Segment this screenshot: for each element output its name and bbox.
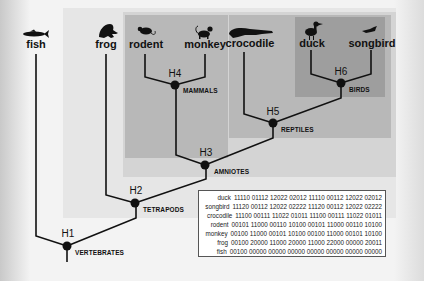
- matrix-row: frog 00100 20000 11000 20000 11000 22000…: [201, 238, 382, 247]
- matrix-row: songbird 11120 00112 12022 02222 11120 0…: [201, 202, 382, 211]
- matrix-codes: 11110 01112 12022 02012 11110 00112 1202…: [234, 193, 382, 202]
- taxon-label-frog: frog: [95, 38, 116, 50]
- matrix-taxon: songbird: [201, 202, 232, 211]
- clade-label-reptiles: REPTILES: [281, 126, 314, 133]
- matrix-taxon: rodent: [201, 220, 232, 229]
- node-label-h6: H6: [335, 66, 348, 77]
- taxon-label-duck: duck: [299, 37, 325, 49]
- matrix-row: fish 00100 00000 00000 00000 00000 00000…: [201, 247, 382, 256]
- matrix-codes: 00101 11000 00110 10100 00101 11000 0011…: [232, 220, 382, 229]
- taxon-label-rodent: rodent: [129, 38, 163, 50]
- node-label-h1: H1: [62, 228, 75, 239]
- frog-icon: [99, 24, 118, 38]
- taxon-label-crocodile: crocodile: [226, 37, 275, 49]
- matrix-taxon: frog: [201, 238, 231, 247]
- node-label-h2: H2: [130, 185, 143, 196]
- character-matrix: duck 11110 01112 12022 02012 11110 00112…: [198, 190, 386, 257]
- matrix-codes: 00100 20000 11000 20000 11000 22000 0000…: [231, 238, 382, 247]
- matrix-taxon: fish: [201, 247, 230, 256]
- node-h6: [337, 79, 346, 88]
- node-label-h4: H4: [169, 68, 182, 79]
- branch-h3-h5: [205, 123, 273, 165]
- clade-label-mammals: MAMMALS: [183, 87, 218, 94]
- clade-label-amniotes: AMNIOTES: [214, 168, 249, 175]
- node-h5: [269, 119, 278, 128]
- node-h4: [171, 81, 180, 90]
- node-h1: [63, 242, 72, 251]
- branch-h1-h2: [67, 203, 136, 246]
- node-h3: [201, 161, 210, 170]
- matrix-taxon: crocodile: [201, 211, 235, 220]
- matrix-codes: 11120 00112 12022 02222 11120 00112 1202…: [232, 202, 382, 211]
- matrix-codes: 11100 00111 11022 01011 11100 00111 1102…: [235, 211, 382, 220]
- branch-frog: [106, 54, 135, 203]
- clade-label-vertebrates: VERTEBRATES: [75, 249, 124, 256]
- matrix-row: rodent 00101 11000 00110 10100 00101 110…: [201, 220, 382, 229]
- taxon-label-fish: fish: [26, 38, 46, 50]
- matrix-row: monkey 00100 11000 00101 10100 00100 110…: [201, 229, 382, 238]
- node-label-h3: H3: [200, 147, 213, 158]
- node-h2: [131, 199, 140, 208]
- branch-h5-h6: [273, 83, 341, 123]
- taxon-label-monkey: monkey: [184, 38, 226, 50]
- rodent-icon: [138, 27, 156, 35]
- clade-label-birds: BIRDS: [349, 86, 370, 93]
- matrix-row: duck 11110 01112 12022 02012 11110 00112…: [201, 193, 382, 202]
- matrix-taxon: monkey: [201, 229, 231, 238]
- matrix-row: crocodile 11100 00111 11022 01011 11100 …: [201, 211, 382, 220]
- matrix-codes: 00100 00000 00000 00000 00000 00000 0000…: [230, 247, 382, 256]
- matrix-taxon: duck: [201, 193, 234, 202]
- node-label-h5: H5: [267, 106, 280, 117]
- matrix-codes: 00100 11000 00101 10100 00100 11000 0010…: [231, 229, 382, 238]
- taxon-label-songbird: songbird: [348, 37, 395, 49]
- branch-h2-h3: [135, 165, 206, 203]
- fish-icon: [23, 30, 49, 39]
- songbird-icon: [362, 26, 377, 33]
- branch-fish: [36, 54, 67, 246]
- clade-label-tetrapods: TETRAPODS: [143, 206, 184, 213]
